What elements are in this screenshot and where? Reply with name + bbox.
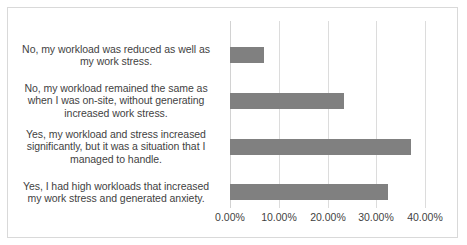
chart-container: No, my workload was reduced as well as m… xyxy=(7,7,458,238)
category-label-0: No, my workload was reduced as well as m… xyxy=(16,43,216,68)
bar-category-1[interactable] xyxy=(230,93,344,109)
tick-label-0: 0.00% xyxy=(215,210,245,224)
value-axis-labels: 0.00% 10.00% 20.00% 30.00% 40.00% xyxy=(222,210,452,228)
bar-category-0[interactable] xyxy=(230,47,264,63)
category-label-1: No, my workload remained the same as whe… xyxy=(16,82,216,119)
tick-label-4: 40.00% xyxy=(407,210,443,224)
tick-label-2: 20.00% xyxy=(310,210,346,224)
category-label-2: Yes, my workload and stress increased si… xyxy=(16,128,216,165)
tick-label-1: 10.00% xyxy=(261,210,297,224)
tick-label-3: 30.00% xyxy=(358,210,394,224)
bar-category-3[interactable] xyxy=(230,184,388,200)
bar-category-2[interactable] xyxy=(230,139,411,155)
category-axis-labels: No, my workload was reduced as well as m… xyxy=(16,21,222,208)
category-label-3: Yes, I had high workloads that increased… xyxy=(16,180,216,205)
plot-area xyxy=(222,21,426,208)
bars-layer xyxy=(222,21,426,208)
